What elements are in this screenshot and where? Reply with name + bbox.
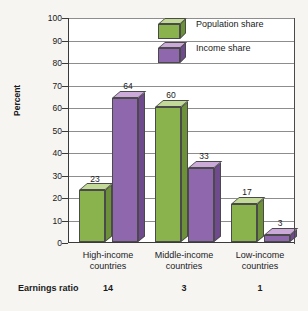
earnings-ratio-label: Earnings ratio	[18, 283, 79, 293]
legend-item-population-share[interactable]: Population share	[150, 14, 295, 38]
gridline-80	[69, 63, 295, 64]
swatch-front-face	[158, 48, 180, 63]
x-category-line-1: Low-income	[236, 250, 285, 261]
y-axis-title: Percent	[12, 102, 22, 116]
x-category-line-2: countries	[83, 261, 134, 272]
y-tick-label-20: 20	[36, 194, 62, 203]
y-tick-label-70: 70	[36, 81, 62, 90]
bar-side-face	[257, 198, 264, 242]
y-tick-label-10: 10	[36, 216, 62, 225]
y-axis-ticks: 100 90 80 70 60 50 40 30 20 10 0	[32, 0, 62, 311]
bar-front-face	[79, 190, 105, 242]
y-tick-label-100: 100	[36, 14, 62, 23]
x-category-label-middle-income: Middle-income countries	[155, 250, 214, 272]
legend-label-income-share: Income share	[196, 43, 251, 53]
bar-low-income-population[interactable]	[231, 204, 257, 242]
y-tick-label-80: 80	[36, 59, 62, 68]
y-tick-label-40: 40	[36, 149, 62, 158]
chart-figure: Percent 100 90 80 70 60 50 40 30 20 10 0	[0, 0, 308, 311]
value-label-middle-income-population: 60	[166, 90, 175, 100]
legend-item-income-share[interactable]: Income share	[150, 38, 295, 62]
value-label-low-income-income: 3	[278, 218, 283, 228]
legend-label-population-share: Population share	[196, 19, 264, 29]
y-tick-label-90: 90	[36, 36, 62, 45]
earnings-ratio-value-high-income: 14	[103, 283, 113, 293]
swatch-side-face	[180, 42, 186, 63]
bar-low-income-income[interactable]	[264, 235, 290, 242]
bar-middle-income-income[interactable]	[188, 168, 214, 242]
bar-front-face	[155, 107, 181, 242]
y-tick-label-30: 30	[36, 171, 62, 180]
swatch-front-face	[158, 24, 180, 39]
legend-swatch-population-share-icon	[158, 18, 180, 33]
y-tick-label-60: 60	[36, 104, 62, 113]
bar-front-face	[112, 98, 138, 242]
bar-middle-income-population[interactable]	[155, 107, 181, 242]
y-tickmark-0	[62, 243, 68, 244]
bar-side-face	[214, 162, 221, 242]
bar-front-face	[264, 235, 290, 242]
chart-legend: Population share Income share	[150, 14, 295, 62]
gridline-70	[69, 86, 295, 87]
earnings-ratio-value-low-income: 1	[257, 283, 262, 293]
earnings-ratio-value-middle-income: 3	[181, 283, 186, 293]
x-category-line-2: countries	[236, 261, 285, 272]
x-category-line-2: countries	[155, 261, 214, 272]
legend-swatch-income-share-icon	[158, 42, 180, 57]
bar-side-face	[181, 101, 188, 242]
bar-side-face	[105, 184, 112, 242]
x-category-line-1: Middle-income	[155, 250, 214, 261]
bar-front-face	[188, 168, 214, 242]
swatch-side-face	[180, 18, 186, 39]
bar-high-income-income[interactable]	[112, 98, 138, 242]
x-category-label-low-income: Low-income countries	[236, 250, 285, 272]
bar-high-income-population[interactable]	[79, 190, 105, 242]
value-label-high-income-population: 23	[90, 174, 99, 184]
x-category-line-1: High-income	[83, 250, 134, 261]
x-category-label-high-income: High-income countries	[83, 250, 134, 272]
y-tick-label-50: 50	[36, 126, 62, 135]
y-tick-label-0: 0	[36, 239, 62, 248]
bar-front-face	[231, 204, 257, 242]
bar-side-face	[138, 92, 145, 242]
value-label-middle-income-income: 33	[199, 151, 208, 161]
value-label-low-income-population: 17	[242, 187, 251, 197]
value-label-high-income-income: 64	[123, 81, 132, 91]
